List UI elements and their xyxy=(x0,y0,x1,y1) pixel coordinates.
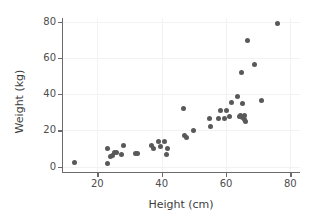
data-point xyxy=(243,119,248,124)
x-tick-mark xyxy=(162,173,163,177)
data-point xyxy=(207,116,212,121)
data-point xyxy=(227,114,232,119)
x-tick-mark xyxy=(97,173,98,177)
data-point xyxy=(162,139,167,144)
data-point xyxy=(151,146,156,151)
data-point xyxy=(242,113,247,118)
gridline-vertical xyxy=(97,18,98,172)
data-point xyxy=(119,152,124,157)
data-point xyxy=(164,152,169,157)
y-tick-mark xyxy=(58,167,62,168)
data-point xyxy=(181,106,186,111)
x-tick-mark xyxy=(290,173,291,177)
data-point xyxy=(218,108,223,113)
gridline-vertical xyxy=(290,18,291,172)
y-axis-label: Weight (kg) xyxy=(13,42,26,162)
y-tick-label: 40 xyxy=(26,89,56,99)
data-point xyxy=(259,98,264,103)
data-point xyxy=(224,108,229,113)
data-point xyxy=(240,101,245,106)
data-point xyxy=(208,124,213,129)
x-tick-label: 20 xyxy=(82,179,112,189)
y-tick-label: 80 xyxy=(26,17,56,27)
data-point xyxy=(252,62,257,67)
data-point xyxy=(72,160,77,165)
x-tick-label: 40 xyxy=(147,179,177,189)
x-tick-label: 60 xyxy=(211,179,241,189)
x-axis-label: Height (cm) xyxy=(62,198,300,211)
data-point xyxy=(191,128,196,133)
y-tick-mark xyxy=(58,22,62,23)
gridline-vertical xyxy=(162,18,163,172)
y-tick-mark xyxy=(58,58,62,59)
data-point xyxy=(275,21,280,26)
y-axis-line xyxy=(62,18,63,172)
y-tick-mark xyxy=(58,94,62,95)
y-tick-label: 0 xyxy=(26,162,56,172)
data-point xyxy=(135,151,140,156)
data-point xyxy=(216,116,221,121)
data-point xyxy=(165,146,170,151)
y-tick-label: 60 xyxy=(26,53,56,63)
y-tick-label: 20 xyxy=(26,125,56,135)
data-point xyxy=(245,38,250,43)
scatter-chart-figure: 02040608020406080 Weight (kg) Height (cm… xyxy=(0,0,312,223)
y-tick-mark xyxy=(58,130,62,131)
x-tick-label: 80 xyxy=(275,179,305,189)
data-point xyxy=(105,146,110,151)
data-point xyxy=(121,143,126,148)
data-point xyxy=(235,94,240,99)
data-point xyxy=(184,135,189,140)
gridline-vertical xyxy=(226,18,227,172)
x-tick-mark xyxy=(226,173,227,177)
data-point xyxy=(239,70,244,75)
data-point xyxy=(229,100,234,105)
data-point xyxy=(105,161,110,166)
plot-area xyxy=(62,18,300,172)
